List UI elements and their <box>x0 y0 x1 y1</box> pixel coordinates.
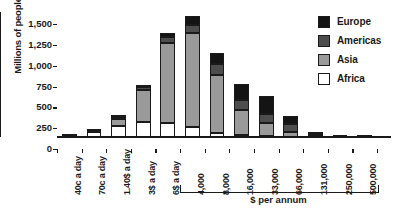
x-tick-label: 70c a day <box>97 156 107 195</box>
legend-swatch-europe <box>318 16 330 28</box>
legend-item-europe[interactable]: Europe <box>318 12 381 31</box>
legend-item-asia[interactable]: Asia <box>318 50 381 69</box>
x-tick-label: 40c a day <box>73 156 83 195</box>
legend-swatch-americas <box>318 35 330 47</box>
legend-item-africa[interactable]: Africa <box>318 69 381 88</box>
x-tick-label: 1.40$ a day <box>122 149 132 195</box>
stacked-bar-chart: Millions of people 02505007501,0001,2501… <box>0 0 403 211</box>
chart-legend: EuropeAmericasAsiaAfrica <box>318 12 381 88</box>
legend-label: Africa <box>337 74 365 84</box>
x-tick-label: 3$ a day <box>147 161 157 195</box>
legend-swatch-asia <box>318 54 330 66</box>
legend-swatch-africa <box>318 73 330 85</box>
legend-item-americas[interactable]: Americas <box>318 31 381 50</box>
x-axis-title: $ per annum <box>180 194 377 205</box>
per-annum-bracket <box>180 185 379 193</box>
legend-label: Americas <box>337 36 381 46</box>
legend-label: Europe <box>337 17 371 27</box>
legend-label: Asia <box>337 55 358 65</box>
